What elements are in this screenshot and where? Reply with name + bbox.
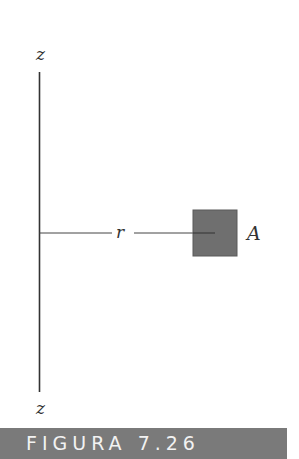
radius-label: r xyxy=(116,222,125,242)
area-label: A xyxy=(245,222,261,244)
figure-caption: FIGURA 7.26 xyxy=(0,428,287,459)
diagram: z z r A xyxy=(0,0,299,459)
z-axis-label-bottom: z xyxy=(35,398,46,418)
z-axis-label-top: z xyxy=(35,44,46,64)
